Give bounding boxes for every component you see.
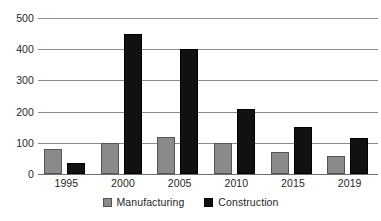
bar-chart: 0100200300400500 19952000200520102015201… xyxy=(0,0,381,221)
x-tick-label-2010: 2010 xyxy=(208,177,264,189)
bar-manufacturing-2015 xyxy=(271,152,289,174)
y-tick-label-200: 200 xyxy=(2,107,34,118)
manufacturing-swatch xyxy=(103,198,112,207)
gridline-0 xyxy=(38,174,378,175)
bar-group-2010 xyxy=(208,18,265,174)
y-tick-label-0: 0 xyxy=(2,169,34,180)
bar-construction-2010 xyxy=(237,109,255,174)
bar-group-2000 xyxy=(95,18,152,174)
bar-construction-1995 xyxy=(67,163,85,174)
bar-manufacturing-2000 xyxy=(101,143,119,174)
bar-group-2019 xyxy=(321,18,378,174)
y-tick-label-500: 500 xyxy=(2,13,34,24)
bar-manufacturing-1995 xyxy=(44,149,62,174)
legend-item-construction[interactable]: Construction xyxy=(204,197,278,208)
bar-manufacturing-2019 xyxy=(327,156,345,174)
chart-legend: ManufacturingConstruction xyxy=(0,197,381,208)
y-tick-label-100: 100 xyxy=(2,138,34,149)
x-tick-label-2019: 2019 xyxy=(322,177,378,189)
bar-manufacturing-2005 xyxy=(157,137,175,174)
construction-swatch xyxy=(204,198,213,207)
bar-construction-2000 xyxy=(124,34,142,174)
x-tick-label-1995: 1995 xyxy=(38,177,94,189)
bar-construction-2019 xyxy=(350,138,368,174)
legend-item-manufacturing[interactable]: Manufacturing xyxy=(103,197,185,208)
bars-layer xyxy=(38,18,378,174)
x-tick-label-2000: 2000 xyxy=(95,177,151,189)
bar-construction-2015 xyxy=(294,127,312,174)
bar-group-1995 xyxy=(38,18,95,174)
legend-label-construction: Construction xyxy=(218,197,278,208)
bar-group-2005 xyxy=(151,18,208,174)
x-tick-label-2005: 2005 xyxy=(152,177,208,189)
x-tick-label-2015: 2015 xyxy=(265,177,321,189)
bar-manufacturing-2010 xyxy=(214,143,232,174)
bar-group-2015 xyxy=(265,18,322,174)
bar-construction-2005 xyxy=(180,49,198,174)
x-axis-tick-labels: 199520002005201020152019 xyxy=(38,177,378,193)
y-tick-label-300: 300 xyxy=(2,75,34,86)
legend-label-manufacturing: Manufacturing xyxy=(117,197,185,208)
y-tick-label-400: 400 xyxy=(2,44,34,55)
